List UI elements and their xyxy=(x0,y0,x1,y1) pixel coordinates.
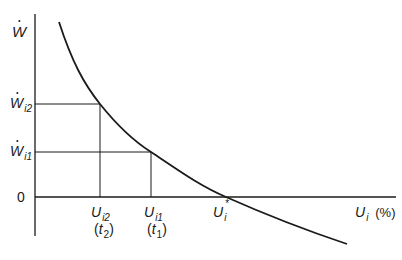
x-tick-t1: (t1) xyxy=(147,222,167,236)
y-tick-zero: 0 xyxy=(17,190,25,204)
x-tick-ui1: Ui1 xyxy=(144,205,163,219)
x-tick-t1-main: t xyxy=(152,221,156,237)
y-tick-wi1-main: W xyxy=(10,143,23,159)
y-tick-wi2-main: W xyxy=(10,95,23,111)
x-tick-t1-sub: 1 xyxy=(157,229,163,240)
x-tick-ui-star-subsup: i* xyxy=(223,204,226,220)
x-tick-ui-star-sup: * xyxy=(225,199,229,209)
x-axis-label: Ui (%) xyxy=(355,205,395,219)
x-axis-label-unit: (%) xyxy=(375,205,395,220)
x-tick-ui1-main: U xyxy=(144,204,154,220)
y-axis-label-text: W xyxy=(12,23,26,40)
x-axis-label-main: U xyxy=(355,204,365,220)
x-tick-t2: (t2) xyxy=(94,222,114,236)
x-tick-ui2-main: U xyxy=(91,204,101,220)
x-tick-ui-star-main: U xyxy=(213,204,223,220)
phillips-curve-diagram: W Wi2 Wi1 0 Ui2 (t2) Ui1 (t1) Ui* Ui (%) xyxy=(0,0,402,260)
y-tick-wi1-sub: i1 xyxy=(24,151,32,162)
x-tick-ui-star: Ui* xyxy=(213,205,226,219)
y-tick-wi1: Wi1 xyxy=(10,144,32,158)
y-axis-label: W xyxy=(12,24,26,39)
y-tick-wi2: Wi2 xyxy=(10,96,32,110)
y-tick-wi2-sub: i2 xyxy=(24,103,32,114)
x-tick-t2-main: t xyxy=(99,221,103,237)
x-tick-t2-sub: 2 xyxy=(104,229,110,240)
x-tick-ui2: Ui2 xyxy=(91,205,110,219)
diagram-canvas xyxy=(0,0,402,260)
